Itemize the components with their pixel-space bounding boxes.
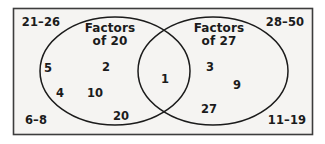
member-intersection-0: 1 — [157, 73, 173, 85]
corner-label-top-left: 21–26 — [14, 16, 68, 28]
member-left-only-1: 2 — [98, 61, 114, 73]
venn-diagram-figure: 21–26 28–50 6–8 11–19 Factors of 20 Fact… — [0, 0, 325, 144]
member-left-only-4: 20 — [110, 110, 132, 122]
corner-label-bottom-left: 6–8 — [14, 114, 58, 126]
corner-label-bottom-right: 11–19 — [262, 114, 312, 126]
corner-label-top-right: 28–50 — [258, 16, 312, 28]
member-left-only-0: 5 — [40, 62, 56, 74]
left-set-title-line2: of 20 — [79, 35, 141, 48]
member-right-only-1: 9 — [229, 79, 245, 91]
member-right-only-2: 27 — [198, 103, 220, 115]
member-left-only-2: 4 — [52, 87, 68, 99]
right-set-title-line2: of 27 — [188, 35, 250, 48]
member-right-only-0: 3 — [202, 61, 218, 73]
member-left-only-3: 10 — [84, 87, 106, 99]
